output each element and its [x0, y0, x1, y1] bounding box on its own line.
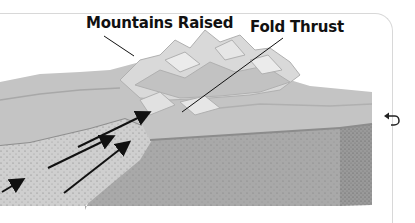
mountains-leader-line [104, 36, 134, 56]
fold-thrust-diagram [0, 0, 415, 223]
label-fold-thrust: Fold Thrust [250, 18, 344, 36]
undo-arrow-icon [383, 111, 401, 127]
label-mountains-raised: Mountains Raised [86, 14, 233, 32]
back-button[interactable] [376, 106, 408, 132]
